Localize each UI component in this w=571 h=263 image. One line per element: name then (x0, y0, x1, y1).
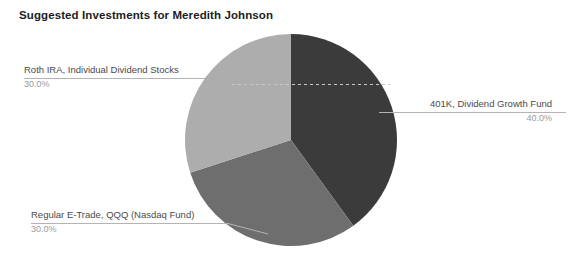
callout-401k-value: 40.0% (430, 111, 552, 124)
callout-etrade: Regular E-Trade, QQQ (Nasdaq Fund) 30.0% (31, 209, 194, 235)
callout-401k-label: 401K, Dividend Growth Fund (430, 98, 552, 111)
pie-chart-figure: Suggested Investments for Meredith Johns… (0, 0, 571, 263)
pie-slices (185, 34, 397, 246)
callout-roth-ira-label: Roth IRA, Individual Dividend Stocks (24, 64, 179, 77)
callout-roth-ira-value: 30.0% (24, 77, 179, 90)
callout-roth-ira: Roth IRA, Individual Dividend Stocks 30.… (24, 64, 179, 90)
callout-401k: 401K, Dividend Growth Fund 40.0% (430, 98, 552, 124)
callout-etrade-value: 30.0% (31, 222, 194, 235)
callout-etrade-label: Regular E-Trade, QQQ (Nasdaq Fund) (31, 209, 194, 222)
